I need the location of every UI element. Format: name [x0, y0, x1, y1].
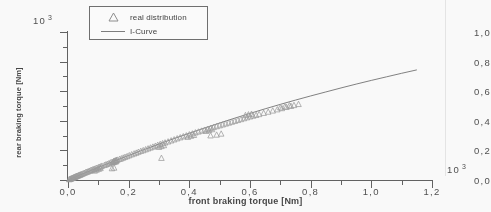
y-tick-major	[60, 32, 67, 33]
y-tick-minor	[63, 76, 67, 77]
y-tick-label: 0,6	[451, 86, 491, 97]
legend: real distribution I-Curve	[89, 6, 208, 40]
x-axis-title: front braking torque [Nm]	[0, 196, 491, 206]
legend-label-real-distribution: real distribution	[130, 13, 187, 22]
data-point-marker	[218, 131, 224, 136]
y-tick-label: 0,2	[451, 145, 491, 156]
data-layer	[68, 32, 432, 180]
x-tick-minor	[341, 181, 342, 185]
y-tick-label: 1,0	[451, 27, 491, 38]
y-tick-minor	[63, 47, 67, 48]
line-marker-icon	[96, 31, 130, 32]
plot-area	[68, 32, 432, 180]
data-point-marker	[270, 108, 276, 113]
y-tick-label: 0,8	[451, 56, 491, 67]
brake-force-distribution-chart: 103 103 1,00,80,60,40,20,0 0,00,20,40,60…	[0, 0, 491, 212]
y-axis-title: rear braking torque [Nm]	[14, 43, 23, 183]
y-tick-minor	[63, 136, 67, 137]
x-axis-exponent-power: 3	[462, 163, 467, 170]
data-point-marker	[265, 109, 271, 114]
legend-entry-real-distribution: real distribution	[90, 10, 207, 24]
y-axis-exponent-power: 3	[48, 14, 53, 21]
triangle-marker-icon	[96, 12, 130, 22]
real-distribution-series	[66, 101, 301, 182]
i-curve-line	[68, 70, 417, 180]
y-tick-major	[60, 91, 67, 92]
y-tick-minor	[63, 106, 67, 107]
y-tick-major	[60, 180, 67, 181]
y-tick-major	[60, 150, 67, 151]
legend-label-i-curve: I-Curve	[130, 27, 157, 36]
y-tick-label: 0,0	[451, 175, 491, 186]
data-point-marker	[159, 155, 165, 160]
x-axis-exponent: 103	[447, 163, 467, 175]
y-tick-major	[60, 62, 67, 63]
x-tick-minor	[220, 181, 221, 185]
i-curve-series	[68, 70, 417, 180]
data-point-marker	[296, 101, 302, 106]
legend-entry-i-curve: I-Curve	[90, 24, 207, 38]
x-tick-minor	[98, 181, 99, 185]
y-tick-minor	[63, 165, 67, 166]
scan-artifact-line	[445, 0, 446, 176]
x-tick-minor	[402, 181, 403, 185]
x-axis-exponent-base: 10	[447, 164, 460, 175]
y-tick-label: 0,4	[451, 115, 491, 126]
y-axis-exponent-base: 10	[33, 15, 46, 26]
x-tick-minor	[280, 181, 281, 185]
data-point-marker	[261, 110, 267, 115]
x-tick-minor	[159, 181, 160, 185]
y-tick-major	[60, 121, 67, 122]
y-axis-exponent: 103	[33, 14, 53, 26]
